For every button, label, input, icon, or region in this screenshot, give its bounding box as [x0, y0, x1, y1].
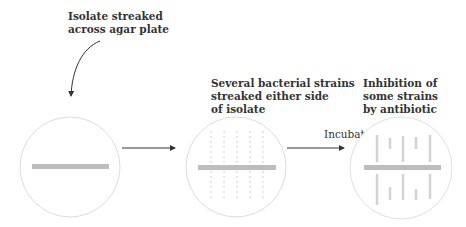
agar-plate-2	[186, 117, 286, 217]
isolate-streak	[32, 164, 109, 169]
antibiotic-screening-diagram: Isolate streaked across agar plate Sever…	[0, 0, 466, 227]
isolate-streak	[364, 165, 441, 170]
agar-plate-3	[350, 117, 452, 219]
curved-arrow-icon	[71, 41, 100, 96]
diagram-graphics	[0, 0, 466, 227]
isolate-streak	[198, 165, 276, 170]
agar-plate-1	[20, 117, 120, 217]
